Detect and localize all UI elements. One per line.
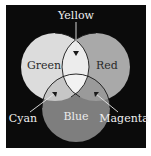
label-yellow: Yellow: [57, 9, 94, 22]
label-red: Red: [96, 59, 118, 72]
label-blue: Blue: [63, 110, 88, 123]
label-green: Green: [27, 59, 61, 72]
label-cyan: Cyan: [9, 112, 37, 125]
label-magenta: Magenta: [99, 112, 149, 125]
venn-diagram: Yellow Green Red Cyan Blue Magenta: [0, 0, 151, 156]
